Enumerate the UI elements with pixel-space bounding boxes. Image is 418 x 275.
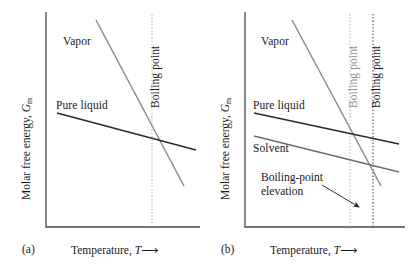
panel-b: Vapor Pure liquid Solvent Boiling point … — [209, 0, 418, 275]
figure-boiling-point-elevation: Vapor Pure liquid Boiling point Molar fr… — [0, 0, 418, 275]
panel-a-tag: (a) — [22, 243, 35, 255]
boiling-point-solution-label: Boiling point — [370, 46, 383, 108]
vapor-label: Vapor — [63, 35, 91, 48]
y-axis-title-prefix: Molar free energy, — [20, 112, 32, 200]
elevation-text-line1: Boiling-point — [261, 171, 323, 185]
x-axis-title-prefix: Temperature, — [71, 244, 135, 256]
panel-b-tag: (b) — [221, 243, 234, 255]
y-axis-title-subscript: m — [224, 98, 233, 104]
pure-liquid-label: Pure liquid — [56, 99, 108, 112]
pure-liquid-line — [57, 113, 196, 150]
y-axis-title-symbol: G — [219, 104, 231, 112]
vapor-label: Vapor — [261, 35, 289, 48]
boiling-point-elevation-annotation: Boiling-point elevation — [261, 171, 323, 198]
vapor-line — [96, 20, 184, 186]
elevation-text-line2: elevation — [261, 185, 323, 199]
y-axis-title: Molar free energy, Gm — [20, 98, 32, 200]
y-axis-title-subscript: m — [25, 98, 34, 104]
panel-a: Vapor Pure liquid Boiling point Molar fr… — [0, 0, 209, 275]
y-axis-title-symbol: G — [20, 104, 32, 112]
x-axis-arrow-icon: ⟶ — [340, 243, 356, 257]
pure-liquid-label: Pure liquid — [253, 99, 305, 112]
elevation-arrow-icon — [322, 185, 359, 207]
panel-b-plot — [209, 0, 418, 275]
y-axis-title: Molar free energy, Gm — [219, 98, 231, 200]
x-axis-title-prefix: Temperature, — [270, 244, 334, 256]
x-axis-arrow-icon: ⟶ — [141, 243, 157, 257]
y-axis-title-prefix: Molar free energy, — [219, 112, 231, 200]
solvent-label: Solvent — [253, 142, 289, 155]
boiling-point-pure-label: Boiling point — [347, 46, 360, 108]
x-axis-title: Temperature, T⟶ — [71, 243, 157, 257]
pure-liquid-line — [254, 113, 399, 144]
x-axis-title: Temperature, T⟶ — [270, 243, 356, 257]
boiling-point-label: Boiling point — [149, 46, 162, 108]
vapor-line — [292, 20, 381, 186]
